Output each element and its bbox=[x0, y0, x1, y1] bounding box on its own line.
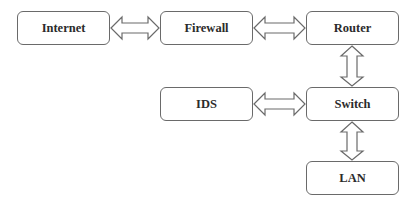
arrow-internet-firewall bbox=[111, 17, 159, 39]
arrow-firewall-router bbox=[254, 17, 305, 39]
arrow-switch-lan bbox=[341, 122, 363, 160]
node-ids: IDS bbox=[160, 87, 253, 121]
node-internet: Internet bbox=[17, 11, 110, 45]
node-switch-label: Switch bbox=[334, 97, 370, 112]
node-firewall: Firewall bbox=[160, 11, 253, 45]
node-lan-label: LAN bbox=[339, 171, 365, 186]
node-firewall-label: Firewall bbox=[184, 21, 228, 36]
node-ids-label: IDS bbox=[196, 97, 217, 112]
node-switch: Switch bbox=[306, 87, 399, 121]
arrow-ids-switch bbox=[254, 93, 305, 115]
node-internet-label: Internet bbox=[42, 21, 86, 36]
arrow-router-switch bbox=[341, 46, 363, 86]
node-lan: LAN bbox=[306, 161, 399, 195]
node-router-label: Router bbox=[334, 21, 372, 36]
node-router: Router bbox=[306, 11, 399, 45]
